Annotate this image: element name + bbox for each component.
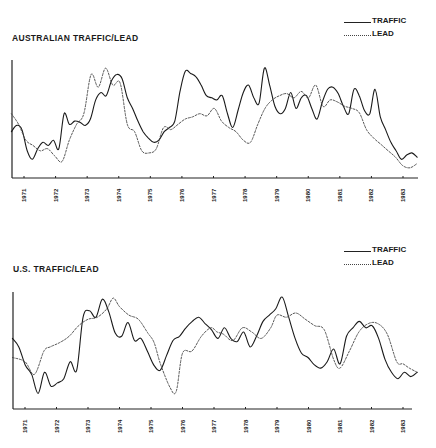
x-tick-label: 1983: [400, 188, 406, 202]
traffic-line: [12, 297, 417, 394]
x-tick-label: 1981: [337, 419, 343, 433]
x-tick-label: 1976: [179, 188, 185, 202]
x-tick-label: 1974: [116, 188, 122, 202]
x-tick-label: 1972: [53, 188, 59, 202]
x-tick-label: 1982: [369, 419, 375, 433]
x-tick-label: 1973: [85, 419, 91, 433]
lead-line: [12, 298, 417, 394]
x-tick-label: 1982: [368, 188, 374, 202]
x-tick-label: 1979: [274, 419, 280, 433]
x-tick-label: 1978: [242, 188, 248, 202]
x-tick-label: 1978: [243, 419, 249, 433]
x-tick-label: 1971: [22, 419, 28, 433]
plot-area: 1971197219731974197519761977197819791980…: [0, 230, 436, 448]
australian-chart: AUSTRALIAN TRAFFIC/LEAD TRAFFIC LEAD 197…: [0, 0, 436, 230]
us-chart: U.S. TRAFFIC/LEAD TRAFFIC LEAD 197119721…: [0, 230, 436, 448]
plot-area: 1971197219731974197519761977197819791980…: [0, 0, 436, 230]
x-tick-label: 1977: [211, 419, 217, 433]
x-tick-label: 1981: [337, 188, 343, 202]
x-tick-label: 1977: [211, 188, 217, 202]
x-tick-label: 1979: [274, 188, 280, 202]
lead-line: [11, 68, 417, 168]
x-tick-label: 1974: [117, 419, 123, 433]
x-tick-label: 1973: [84, 188, 90, 202]
x-tick-label: 1972: [54, 419, 60, 433]
x-tick-label: 1983: [400, 419, 406, 433]
traffic-line: [11, 68, 417, 160]
x-tick-label: 1980: [305, 188, 311, 202]
x-tick-label: 1975: [148, 419, 154, 433]
x-tick-label: 1971: [21, 188, 27, 202]
x-tick-label: 1976: [180, 419, 186, 433]
x-tick-label: 1975: [147, 188, 153, 202]
x-tick-label: 1980: [306, 419, 312, 433]
